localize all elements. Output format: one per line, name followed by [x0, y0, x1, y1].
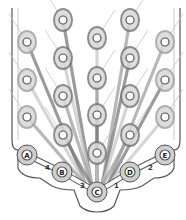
bolt-hole — [93, 149, 101, 157]
bolt-hole — [126, 92, 134, 100]
bolt-hole — [126, 54, 134, 62]
bolt-hole — [93, 74, 101, 82]
bolt-hole — [161, 38, 169, 46]
bolt-hole — [126, 16, 134, 24]
bolt-hole — [59, 131, 67, 139]
bolt-hole — [93, 111, 101, 119]
bolt-hole — [126, 131, 134, 139]
bolt-sequence-diagram: 4312 ABCDE — [0, 0, 186, 220]
bolt-hole — [23, 113, 31, 121]
bolt-hole — [161, 113, 169, 121]
sequence-step-label: 4 — [45, 164, 50, 172]
bolt-hole — [23, 76, 31, 84]
anchor-label-D: D — [127, 169, 133, 177]
sequence-step-label: 1 — [114, 182, 119, 190]
bolt-hole — [59, 92, 67, 100]
anchor-label-E: E — [163, 152, 168, 160]
bolt-hole — [23, 38, 31, 46]
anchor-label-A: A — [24, 152, 30, 160]
bolt-hole — [59, 16, 67, 24]
bolt-hole — [161, 76, 169, 84]
anchor-label-C: C — [94, 189, 99, 197]
bolt-hole — [93, 34, 101, 42]
sequence-step-label: 2 — [148, 164, 153, 172]
bolt-hole — [59, 54, 67, 62]
anchor-label-B: B — [59, 169, 64, 177]
sequence-step-label: 3 — [80, 182, 85, 190]
